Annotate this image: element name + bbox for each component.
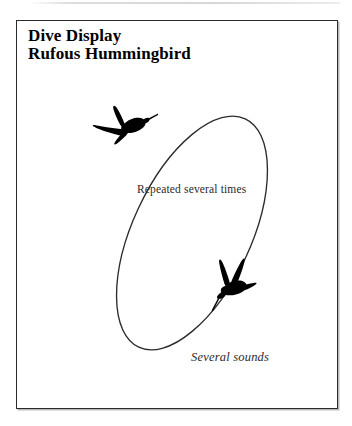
dive-path-oval-icon [16,20,338,409]
hummingbird-silhouette-icon [92,103,158,153]
figure-root: Dive Display Rufous Hummingbird [0,0,352,426]
hummingbird-diving-silhouette-icon [203,252,257,312]
scan-edge-artifact [30,2,340,4]
annotation-several-sounds: Several sounds [191,350,269,365]
annotation-repeated: Repeated several times [137,183,246,195]
